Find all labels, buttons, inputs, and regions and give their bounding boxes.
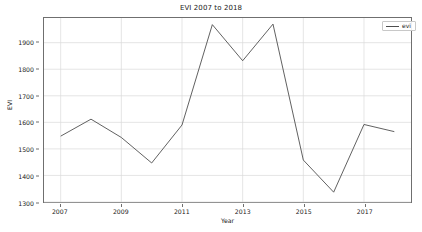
- y-tick-mark: [36, 203, 39, 204]
- y-tick-label: 1700: [18, 92, 34, 99]
- y-tick-label: 1400: [18, 173, 34, 180]
- y-tick-mark: [36, 122, 39, 123]
- x-tick-label: 2017: [357, 208, 373, 215]
- y-axis-tick-labels: 1300140015001600170018001900: [0, 17, 39, 203]
- y-tick-mark: [36, 176, 39, 177]
- y-tick-mark: [36, 149, 39, 150]
- y-tick-mark: [36, 41, 39, 42]
- chart-figure: EVI 2007 to 2018 EVI 1300140015001600170…: [0, 0, 422, 232]
- x-tick-label: 2007: [52, 208, 68, 215]
- y-tick-label: 1900: [18, 38, 34, 45]
- x-axis-label: Year: [43, 217, 412, 224]
- line-series-layer: [44, 18, 411, 202]
- x-tick-label: 2015: [296, 208, 312, 215]
- x-tick-label: 2009: [113, 208, 129, 215]
- y-tick-label: 1600: [18, 119, 34, 126]
- x-tick-mark: [365, 204, 366, 207]
- y-tick-label: 1800: [18, 65, 34, 72]
- chart-legend[interactable]: evi: [382, 21, 416, 31]
- plot-area: [43, 17, 412, 203]
- x-tick-label: 2011: [174, 208, 190, 215]
- x-tick-mark: [243, 204, 244, 207]
- x-tick-mark: [304, 204, 305, 207]
- x-tick-mark: [60, 204, 61, 207]
- x-tick-mark: [121, 204, 122, 207]
- y-tick-mark: [36, 68, 39, 69]
- y-tick-mark: [36, 95, 39, 96]
- x-tick-mark: [182, 204, 183, 207]
- legend-label-evi: evi: [402, 23, 411, 29]
- line-series-evi: [61, 24, 395, 192]
- x-tick-label: 2013: [235, 208, 251, 215]
- legend-line-swatch-evi: [386, 26, 399, 27]
- y-tick-label: 1300: [18, 200, 34, 207]
- y-tick-label: 1500: [18, 146, 34, 153]
- chart-title: EVI 2007 to 2018: [0, 4, 422, 12]
